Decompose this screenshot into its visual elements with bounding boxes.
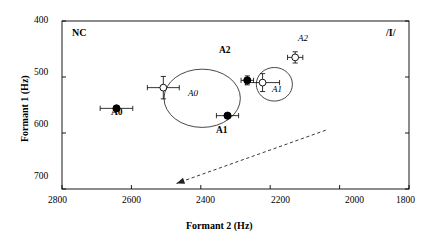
chart-figure: 2800 2600 2400 2200 2000 1800 400 500 60… (0, 0, 434, 243)
data-point-A0-open (147, 76, 179, 98)
plot-area (0, 0, 434, 243)
point-label-a2-italic: A2 (298, 34, 308, 43)
arrowhead-icon (177, 178, 186, 184)
x-axis-title: Formant 2 (Hz) (186, 221, 253, 231)
x-tick-label-3: 2200 (271, 196, 290, 206)
x-tick-label-2: 2400 (196, 196, 215, 206)
y-tick-label-0: 400 (34, 16, 48, 26)
x-tick-label-4: 2000 (345, 196, 364, 206)
point-label-a1-italic: A1 (272, 85, 282, 94)
data-point-A2-open (288, 52, 303, 63)
x-tick-label-0: 2800 (48, 196, 67, 206)
point-label-a0-bold: A0 (111, 108, 123, 118)
axes-layer (62, 21, 409, 189)
marker-A1 (224, 112, 231, 119)
annotation-layer (177, 130, 326, 184)
y-tick-label-2: 600 (34, 120, 48, 130)
plot-frame (62, 21, 409, 189)
marker-A0-open (160, 84, 167, 91)
phoneme-label: /I/ (386, 28, 395, 38)
marker-A1-open (259, 79, 266, 86)
point-label-a0-italic: A0 (188, 89, 198, 98)
trend-arrow (177, 130, 326, 183)
y-tick-label-1: 500 (34, 68, 48, 78)
y-axis-title: Formant 1 (Hz) (20, 75, 30, 142)
x-tick-label-5: 1800 (396, 196, 415, 206)
point-label-a2-bold: A2 (219, 46, 231, 56)
marker-A2-open (292, 54, 299, 61)
data-point-A2 (241, 76, 253, 85)
cluster-label-a1-bold: A1 (216, 126, 228, 136)
condition-label-nc: NC (72, 28, 86, 38)
x-tick-label-1: 2600 (122, 196, 141, 206)
y-tick-label-3: 700 (34, 172, 48, 182)
